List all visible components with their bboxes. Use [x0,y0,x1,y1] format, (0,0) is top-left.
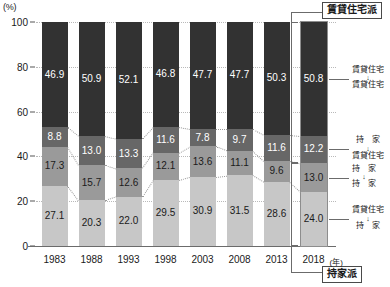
segment-connector-line [178,127,189,130]
bar-segment-value: 20.3 [82,218,101,228]
series-annotation: 賃貸住宅↓持 家 [352,206,384,230]
bar-segment[interactable]: 9.6 [264,161,290,183]
bar-segment-value: 8.8 [48,132,62,142]
bar-segment-value: 17.3 [45,161,64,171]
bar-1988[interactable]: 50.913.015.720.3 [79,22,105,246]
bar-segment[interactable]: 27.1 [42,186,68,247]
y-axis-unit-label: (%) [3,2,16,12]
bar-segment[interactable]: 13.3 [116,139,142,169]
bar-segment[interactable]: 47.7 [227,22,253,129]
bar-segment-value: 30.9 [193,206,212,216]
bar-segment[interactable]: 47.7 [190,22,216,129]
bar-segment[interactable]: 13.6 [190,146,216,176]
bar-segment[interactable]: 31.5 [227,175,253,246]
bar-1983[interactable]: 46.98.817.327.1 [42,22,68,246]
x-axis-label-2013: 2013 [265,254,287,265]
bar-segment[interactable]: 17.3 [42,147,68,186]
y-axis-tick-60: 60 [0,106,28,117]
series-annotation: 賃貸住宅↓賃貸住宅 [352,66,384,90]
callout-bottom-stem [291,246,292,272]
bar-segment[interactable]: 9.7 [227,129,253,151]
bar-segment-value: 47.7 [230,70,249,80]
bar-segment[interactable]: 12.6 [116,168,142,196]
annotation-to: 賃貸住宅 [352,81,384,89]
bar-segment[interactable]: 20.3 [79,200,105,245]
series-annotation: 持 家↓持 家 [352,165,376,189]
bar-segment-value: 15.7 [82,178,101,188]
bar-segment-value: 13.3 [119,149,138,159]
annotation-from: 賃貸住宅 [352,66,384,74]
annotation-to: 持 家 [352,222,384,230]
y-axis-tick-0: 0 [0,241,28,252]
bar-segment[interactable]: 46.9 [42,22,68,127]
annotation-leader-line [329,149,350,150]
bar-segment-value: 28.6 [267,209,286,219]
segment-connector-line [252,175,264,183]
annotation-leader-line [329,178,350,179]
bar-segment-value: 7.8 [196,133,210,143]
bar-2008[interactable]: 47.79.711.131.5 [227,22,253,246]
annotation-to: 賃貸住宅 [352,152,384,160]
bar-segment[interactable]: 22.0 [116,197,142,246]
bar-segment-value: 12.1 [156,161,175,171]
annotation-leader-line [329,219,350,220]
bar-segment-value: 11.6 [267,143,286,153]
bar-segment-value: 46.9 [45,70,64,80]
x-axis-label-1993: 1993 [117,254,139,265]
bar-segment-value: 50.9 [82,74,101,84]
callout-owner-faction: 持家派 [322,266,362,283]
y-axis-tick-mark [30,22,35,23]
bar-segment[interactable]: 15.7 [79,165,105,200]
callout-bottom-leader [291,272,323,273]
segment-connector-line [216,175,227,177]
bar-1998[interactable]: 46.811.612.129.5 [153,22,179,246]
annotation-from: 持 家 [352,165,376,173]
y-axis-tick-mark [30,111,35,112]
x-axis-label-1988: 1988 [80,254,102,265]
bar-segment[interactable]: 30.9 [190,177,216,246]
bar-segment-value: 13.0 [82,146,101,156]
bar-1993[interactable]: 52.113.312.622.0 [116,22,142,246]
bar-segment-value: 29.5 [156,208,175,218]
segment-connector-line [179,177,190,181]
y-axis-tick-40: 40 [0,151,28,162]
segment-connector-line [216,129,227,130]
bar-segment-value: 31.5 [230,206,249,216]
segment-connector-line [142,127,154,140]
bar-segment[interactable]: 12.1 [153,153,179,180]
y-axis-tick-20: 20 [0,196,28,207]
annotation-to: 持 家 [352,180,376,188]
x-axis-label-1998: 1998 [154,254,176,265]
bar-segment[interactable]: 46.8 [153,22,179,127]
y-axis-tick-100: 100 [0,17,28,28]
bracket-owner-faction [291,163,298,246]
bar-2003[interactable]: 47.77.813.630.9 [190,22,216,246]
bar-segment[interactable]: 11.6 [264,135,290,161]
x-axis-unit-label: (年) [330,256,343,267]
x-axis-label-2018: 2018 [302,254,324,265]
y-axis-tick-80: 80 [0,61,28,72]
annotation-leader-line [329,79,350,80]
bar-segment[interactable]: 13.0 [79,136,105,165]
x-axis-label-2003: 2003 [191,254,213,265]
callout-rental-faction: 賃貸住宅派 [322,2,382,19]
bar-segment-value: 52.1 [119,75,138,85]
bar-segment[interactable]: 11.6 [153,127,179,153]
y-axis-tick-mark [30,201,35,202]
bar-segment-value: 47.7 [193,70,212,80]
bar-segment[interactable]: 52.1 [116,22,142,139]
segment-connector-line [67,186,79,201]
bar-segment[interactable]: 11.1 [227,151,253,176]
bar-segment[interactable]: 29.5 [153,180,179,246]
bar-segment-value: 27.1 [45,211,64,221]
bar-2013[interactable]: 50.311.69.628.6 [264,22,290,246]
y-axis-tick-mark [30,66,35,67]
bar-segment[interactable]: 7.8 [190,129,216,146]
segment-connector-line [104,136,115,140]
bar-segment[interactable]: 28.6 [264,182,290,246]
bar-segment[interactable]: 50.9 [79,22,105,136]
bar-segment[interactable]: 50.3 [264,22,290,135]
bar-segment-value: 11.6 [156,135,175,145]
bar-segment[interactable]: 8.8 [42,127,68,147]
segment-connector-line [215,146,226,151]
